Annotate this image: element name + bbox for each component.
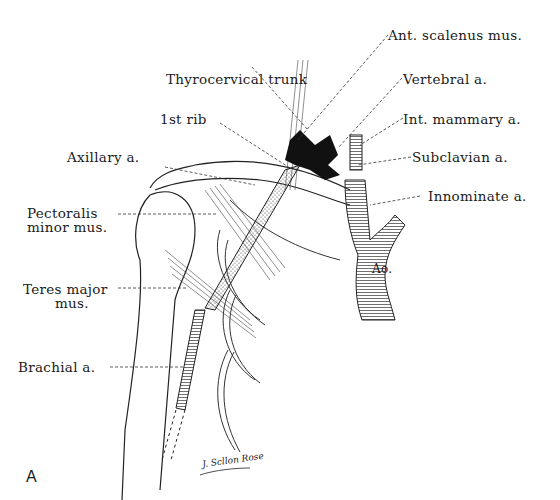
humerus-bone [122, 192, 195, 500]
muscle-fibers [165, 60, 308, 338]
panel-letter: A [26, 468, 37, 486]
label-axillary: Axillary a. [67, 150, 139, 164]
label-ant-scalenus: Ant. scalenus mus. [388, 28, 522, 42]
label-teres-line2: mus. [55, 296, 89, 310]
label-innominate: Innominate a. [428, 189, 527, 203]
brachial-artery [176, 310, 205, 410]
axillary-artery [205, 165, 300, 310]
ribs [217, 200, 340, 452]
label-pectoralis-line2: minor mus. [27, 220, 107, 234]
label-subclavian: Subclavian a. [412, 150, 508, 164]
label-teres-line1: Teres major [23, 282, 108, 296]
label-vertebral: Vertebral a. [403, 72, 487, 86]
label-aorta: Ao. [372, 262, 392, 276]
label-thyrocervical: Thyrocervical trunk [166, 72, 307, 86]
label-brachial: Brachial a. [18, 360, 95, 374]
label-int-mammary: Int. mammary a. [403, 112, 521, 126]
label-first-rib: 1st rib [160, 112, 207, 126]
innominate-and-aorta [345, 180, 405, 320]
signature-underline [200, 468, 250, 475]
label-pectoralis-line1: Pectoralis [27, 206, 98, 220]
